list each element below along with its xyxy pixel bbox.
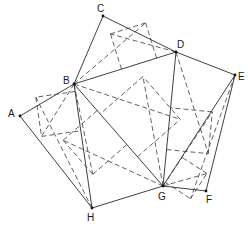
square-bgh-side [93,145,127,175]
square-bdg-side [137,119,180,156]
vertex-point-d [175,51,178,54]
vertex-label-c: C [97,3,104,14]
vertex-point-h [91,207,94,210]
vertex-point-c [102,15,105,18]
vertex-label-f: F [206,194,212,205]
vertex-label-e: E [238,71,245,82]
edge-bc [74,16,103,84]
vertex-points [19,15,237,210]
edge-de [176,52,235,75]
edge-bd [74,52,176,84]
edge-bg [74,84,163,186]
square-efg-diagonal [191,75,235,199]
edge-ha [20,116,92,208]
square-bcd-side [146,23,157,58]
vertex-label-g: G [158,191,166,202]
vertex-point-g [162,185,165,188]
square-deg-side [167,150,209,154]
square-efg-side [165,182,190,198]
edge-fg [163,186,206,191]
vertex-point-f [205,190,208,193]
square-efg-side [182,157,207,173]
polygon-diagram: A B C D E F G H [0,0,248,229]
square-bdg-side [100,77,143,114]
vertex-label-b: B [63,75,70,86]
square-abh-diagonal [42,84,74,136]
edge-ab [20,84,74,116]
square-deg-diagonal [176,52,208,154]
vertex-label-a: A [8,108,15,119]
vertex-point-b [73,83,76,86]
edge-gh [92,186,163,208]
square-bgh-top [63,140,93,174]
square-abh-top [36,97,42,136]
square-deg-side [171,108,213,112]
square-bcd-diagonal [74,23,146,84]
solid-edges [20,16,235,208]
vertex-point-e [234,74,237,77]
square-bcd-top [110,23,145,34]
vertex-label-d: D [177,39,184,50]
edge-cd [103,16,176,52]
vertex-label-h: H [87,212,94,223]
dashed-constructions [36,23,235,208]
edge-dg [163,52,176,186]
vertex-point-a [19,115,22,118]
square-bcd-diagonal [110,34,176,52]
square-bgh-diagonal [74,84,93,174]
square-efg-top [191,174,207,199]
square-bdg-diagonal [143,77,163,186]
square-abh-side [42,131,81,137]
square-bgh-diagonal [63,140,163,186]
